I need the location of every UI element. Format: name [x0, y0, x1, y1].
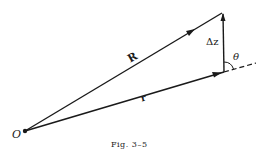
label-delta-z: Δz: [206, 37, 219, 47]
delta-z-line: [223, 14, 224, 72]
vector-diagram-figure: R r Δz θ O Fig. 3–5: [0, 0, 271, 163]
vector-r-arrowhead: [212, 72, 222, 78]
origin-point: [23, 129, 27, 133]
theta-arc: [224, 62, 234, 69]
diagram-canvas: [0, 0, 271, 163]
label-origin: O: [12, 129, 21, 140]
figure-caption: Fig. 3–5: [111, 141, 148, 149]
r-extension-dashed: [224, 63, 256, 72]
vector-r-line: [25, 72, 224, 131]
label-theta: θ: [233, 52, 239, 62]
vector-R-arrowhead: [186, 29, 195, 36]
